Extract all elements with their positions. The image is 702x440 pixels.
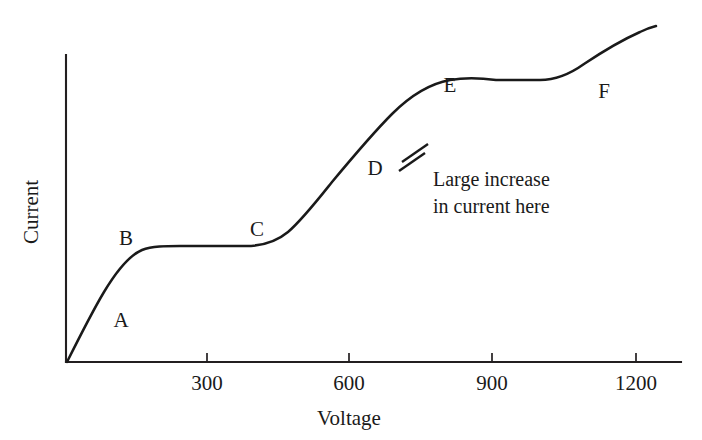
x-tick-label-1200: 1200 — [615, 371, 657, 395]
chart-figure: 300 600 900 1200 Voltage Current A B C D… — [0, 0, 702, 440]
annotation-line-2: in current here — [433, 195, 550, 217]
current-voltage-curve — [67, 26, 656, 362]
point-label-b: B — [119, 226, 133, 250]
large-increase-annotation: Large increase in current here — [433, 168, 550, 217]
break-marks-icon — [399, 144, 428, 171]
chart-svg: 300 600 900 1200 Voltage Current A B C D… — [0, 0, 702, 440]
point-label-c: C — [250, 217, 264, 241]
x-axis-tick-labels: 300 600 900 1200 — [191, 371, 657, 395]
x-axis-title: Voltage — [317, 406, 381, 430]
point-label-d: D — [367, 156, 382, 180]
point-label-e: E — [444, 73, 457, 97]
x-axis-ticks — [207, 353, 636, 362]
y-axis-title: Current — [19, 180, 43, 244]
annotation-line-1: Large increase — [433, 168, 550, 191]
x-tick-label-300: 300 — [191, 371, 223, 395]
x-tick-label-900: 900 — [476, 371, 508, 395]
x-tick-label-600: 600 — [333, 371, 365, 395]
point-label-a: A — [113, 308, 129, 332]
point-label-f: F — [598, 79, 610, 103]
